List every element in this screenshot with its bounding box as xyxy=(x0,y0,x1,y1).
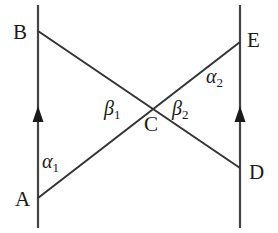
vertex-label-e: E xyxy=(247,30,260,51)
angle-symbol: α xyxy=(206,65,217,87)
angle-label-alpha-2: α2 xyxy=(206,66,223,89)
angle-subscript: 2 xyxy=(217,75,224,90)
angle-symbol: β xyxy=(172,97,182,119)
vertex-label-d: D xyxy=(249,162,264,183)
geometry-diagram: B E A D C α1 α2 β1 β2 xyxy=(0,0,278,233)
angle-label-alpha-1: α1 xyxy=(42,151,59,174)
right-direction-arrow-icon xyxy=(235,106,246,122)
vertex-label-a: A xyxy=(15,189,30,210)
angle-subscript: 1 xyxy=(53,160,60,175)
angle-subscript: 1 xyxy=(114,107,121,122)
angle-symbol: α xyxy=(42,150,53,172)
angle-symbol: β xyxy=(104,97,114,119)
vertex-label-b: B xyxy=(13,22,27,43)
angle-subscript: 2 xyxy=(182,107,189,122)
diagram-canvas xyxy=(0,0,278,233)
angle-label-beta-1: β1 xyxy=(104,98,120,121)
angle-label-beta-2: β2 xyxy=(172,98,188,121)
segment-bd xyxy=(38,31,240,168)
vertex-label-c: C xyxy=(144,114,158,135)
left-direction-arrow-icon xyxy=(33,106,44,122)
